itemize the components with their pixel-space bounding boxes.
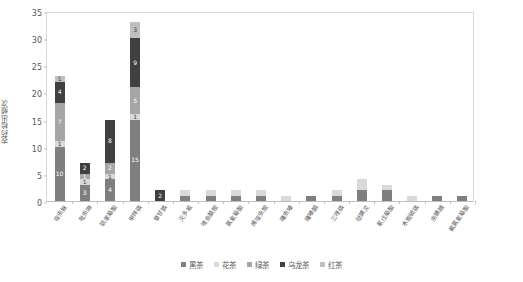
bar-segment[interactable] xyxy=(332,196,342,201)
y-axis-title: 农药检出频次 xyxy=(2,62,16,182)
bar-segment-label: 4 xyxy=(108,187,112,193)
bar-group[interactable]: 4128 xyxy=(105,120,115,201)
bar-segment[interactable]: 5 xyxy=(130,87,140,114)
bar-segment[interactable]: 1 xyxy=(55,141,65,146)
bar-segment-label: 8 xyxy=(108,138,112,144)
bar-group[interactable] xyxy=(432,196,442,201)
bar-group[interactable] xyxy=(256,190,266,201)
bar-segment[interactable] xyxy=(231,190,241,195)
bars-layer: 101741311241281515932 xyxy=(47,13,473,201)
bar-segment[interactable]: 3 xyxy=(80,185,90,201)
bar-segment-label: 3 xyxy=(83,190,87,196)
bar-segment[interactable]: 9 xyxy=(130,38,140,87)
bar-segment[interactable]: 10 xyxy=(55,147,65,201)
bar-segment[interactable]: 4 xyxy=(55,82,65,104)
x-axis-label: 灭多威 xyxy=(178,204,193,223)
legend-item[interactable]: 绿茶 xyxy=(247,259,269,270)
bar-group[interactable] xyxy=(357,179,367,201)
legend-swatch-icon xyxy=(214,262,219,267)
bar-segment[interactable] xyxy=(382,190,392,201)
x-axis-label: 氟氯氰菊酯 xyxy=(448,204,470,233)
legend-swatch-icon xyxy=(247,262,252,267)
bar-segment-label: 1 xyxy=(83,179,87,184)
x-axis-labels: 啶虫脒吡虫啉联苯菊酯甲拌磷草甘膦灭多威唑虫酰胺氯氰菊酯烯啶虫胺噻虫嗪噻嗪酮三唑磷… xyxy=(46,204,474,256)
bar-segment[interactable] xyxy=(382,185,392,190)
bar-group[interactable] xyxy=(407,196,417,201)
legend-label: 绿茶 xyxy=(255,259,269,270)
bar-segment-label: 5 xyxy=(133,98,137,104)
bar-segment[interactable] xyxy=(256,196,266,201)
bar-group[interactable]: 2 xyxy=(155,190,165,201)
bar-segment[interactable]: 4 xyxy=(105,179,115,201)
chart-legend: 黑茶花茶绿茶乌龙茶红茶 xyxy=(0,259,523,270)
x-axis-label: 草甘膦 xyxy=(153,204,168,223)
x-axis-label: 氰戊菊酯 xyxy=(376,204,395,228)
x-axis-label: 联苯菊酯 xyxy=(99,204,118,228)
x-axis-label: 三唑磷 xyxy=(329,204,344,223)
bar-segment[interactable] xyxy=(206,196,216,201)
bar-group[interactable] xyxy=(281,196,291,201)
legend-swatch-icon xyxy=(181,262,186,267)
bar-segment[interactable]: 3 xyxy=(130,22,140,38)
x-axis-label: 虫螨腈 xyxy=(430,204,445,223)
bar-segment-label: 4 xyxy=(58,89,62,95)
legend-item[interactable]: 红茶 xyxy=(320,259,342,270)
bar-group[interactable]: 3112 xyxy=(80,163,90,201)
bar-segment[interactable]: 1 xyxy=(105,174,115,179)
bar-segment[interactable] xyxy=(231,196,241,201)
bar-segment[interactable] xyxy=(256,190,266,195)
x-axis-label: 噻虫嗪 xyxy=(279,204,294,223)
bar-group[interactable] xyxy=(306,196,316,201)
bar-segment[interactable]: 8 xyxy=(105,120,115,163)
bar-segment-label: 1 xyxy=(58,76,62,81)
bar-segment[interactable]: 1 xyxy=(130,114,140,119)
bar-segment[interactable]: 2 xyxy=(80,163,90,174)
bar-segment-label: 1 xyxy=(108,174,112,179)
bar-segment[interactable]: 1 xyxy=(80,174,90,179)
bar-group[interactable]: 101741 xyxy=(55,76,65,201)
x-axis-label: 唑虫酰胺 xyxy=(200,204,219,228)
legend-label: 乌龙茶 xyxy=(288,259,309,270)
bar-segment-label: 2 xyxy=(83,165,87,171)
bar-segment[interactable]: 1 xyxy=(55,76,65,81)
bar-group[interactable] xyxy=(206,190,216,201)
x-axis-label: 噻嗪酮 xyxy=(304,204,319,223)
bar-segment[interactable] xyxy=(306,196,316,201)
bar-segment-label: 1 xyxy=(133,114,137,119)
legend-item[interactable]: 黑茶 xyxy=(181,259,203,270)
bar-segment-label: 7 xyxy=(58,119,62,125)
bar-segment[interactable]: 2 xyxy=(105,163,115,174)
bar-segment[interactable]: 2 xyxy=(155,190,165,201)
bar-segment-label: 1 xyxy=(83,174,87,179)
bar-segment-label: 3 xyxy=(133,27,137,33)
legend-swatch-icon xyxy=(280,262,285,267)
legend-label: 黑茶 xyxy=(189,259,203,270)
bar-segment[interactable] xyxy=(281,196,291,201)
bar-segment-label: 15 xyxy=(131,157,139,163)
bar-group[interactable] xyxy=(231,190,241,201)
bar-group[interactable]: 151593 xyxy=(130,22,140,201)
bar-segment[interactable] xyxy=(407,196,417,201)
bar-group[interactable] xyxy=(180,190,190,201)
bar-segment[interactable] xyxy=(357,190,367,201)
bar-segment[interactable] xyxy=(432,196,442,201)
bar-segment[interactable] xyxy=(206,190,216,195)
legend-item[interactable]: 乌龙茶 xyxy=(280,259,309,270)
x-axis-label: 水胺硫磷 xyxy=(401,204,420,228)
bar-segment[interactable]: 7 xyxy=(55,103,65,141)
bar-group[interactable] xyxy=(457,196,467,201)
bar-segment[interactable] xyxy=(180,196,190,201)
x-axis-label: 氯氰菊酯 xyxy=(225,204,244,228)
bar-group[interactable] xyxy=(382,185,392,201)
bar-group[interactable] xyxy=(332,190,342,201)
bar-segment[interactable] xyxy=(457,196,467,201)
bar-segment-label: 2 xyxy=(108,165,112,171)
legend-item[interactable]: 花茶 xyxy=(214,259,236,270)
bar-segment[interactable] xyxy=(180,190,190,195)
bar-segment[interactable]: 1 xyxy=(80,179,90,184)
x-axis-label: 吡虫啉 xyxy=(77,204,92,223)
bar-segment[interactable] xyxy=(357,179,367,190)
bar-segment[interactable]: 15 xyxy=(130,120,140,201)
bar-segment[interactable] xyxy=(332,190,342,195)
bar-segment-label: 1 xyxy=(58,141,62,146)
